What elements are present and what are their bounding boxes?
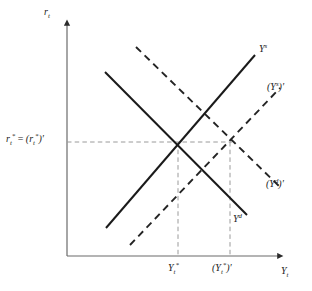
curve-yd-prime: [136, 47, 280, 187]
y-tick-label-equilibrium-rate: rt* = (rt*)′: [6, 134, 44, 144]
supply-demand-figure: rt Yt Ys (Ys)′ (Yd)′ Yd rt* = (rt*)′ Yt*…: [0, 0, 312, 291]
y-axis-label: rt: [44, 7, 50, 17]
curve-label-yd: Yd: [233, 214, 242, 224]
x-tick-label-output-new: (Yt*)′: [212, 263, 232, 273]
curve-label-ys: Ys: [259, 44, 267, 54]
curve-label-yd-prime: (Yd)′: [266, 179, 284, 189]
x-axis-label: Yt: [281, 266, 288, 276]
x-tick-label-output-original: Yt*: [168, 263, 179, 273]
curve-yd: [105, 72, 247, 215]
curve-label-ys-prime: (Ys)′: [267, 82, 284, 92]
